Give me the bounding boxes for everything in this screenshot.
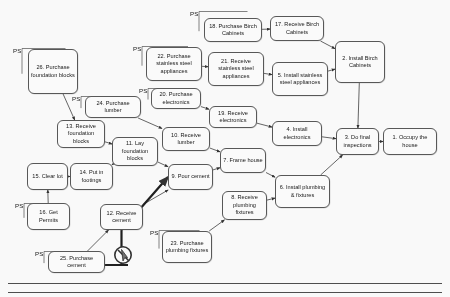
ps-marker-n25: PS xyxy=(35,250,44,257)
node-n12[interactable]: 12. Receive cement xyxy=(100,204,143,230)
node-label: 19. Receive electronics xyxy=(212,110,254,125)
node-label: 20. Purchase electronics xyxy=(154,91,198,106)
node-n18[interactable]: 18. Purchase Birch Cabinets xyxy=(204,18,262,42)
node-n17[interactable]: 17. Receive Birch Cabinets xyxy=(270,16,324,41)
node-label: 23. Purchase plumbing fixtures xyxy=(165,240,209,255)
node-n3[interactable]: 3. Do final inspections xyxy=(336,128,379,155)
no-drop-cursor-icon xyxy=(112,244,136,268)
node-n9[interactable]: 9. Pour cement xyxy=(168,164,213,190)
edge-n20-n19 xyxy=(201,107,209,110)
node-label: 25. Purchase cement xyxy=(51,255,102,270)
node-n7[interactable]: 7. Frame house xyxy=(220,148,266,173)
node-n22[interactable]: 22. Purchase stainless steel appliances xyxy=(146,47,202,81)
edge-n25-n12 xyxy=(88,230,109,251)
node-n21[interactable]: 21. Receive stainless steel appliances xyxy=(208,52,264,86)
ps-marker-n20: PS xyxy=(139,87,148,94)
edge-n23-n8 xyxy=(209,220,224,231)
network-diagram-canvas: 26. Purchase foundation blocksPS18. Purc… xyxy=(0,0,450,297)
node-n20[interactable]: 20. Purchase electronics xyxy=(151,88,201,109)
ps-marker-n22: PS xyxy=(133,45,142,52)
node-label: 17. Receive Birch Cabinets xyxy=(273,21,321,36)
node-label: 3. Do final inspections xyxy=(339,134,376,149)
edge-n7-n6 xyxy=(266,173,275,178)
ps-marker-n16: PS xyxy=(15,202,24,209)
node-n8[interactable]: 8. Receive plumbing fixtures xyxy=(222,191,267,220)
node-n26[interactable]: 26. Purchase foundation blocks xyxy=(28,49,78,94)
node-label: 14. Put in footings xyxy=(73,169,110,184)
edge-n10-n7 xyxy=(210,148,220,152)
edge-n13-n11 xyxy=(105,142,112,144)
node-label: 2. Install Birch Cabinets xyxy=(338,55,382,70)
edge-n8-n6 xyxy=(267,198,275,200)
node-n2[interactable]: 2. Install Birch Cabinets xyxy=(335,41,385,83)
node-label: 18. Purchase Birch Cabinets xyxy=(207,23,259,38)
node-n10[interactable]: 10. Receive lumber xyxy=(162,127,210,151)
ps-marker-n24: PS xyxy=(72,95,81,102)
node-label: 15. Clear lot xyxy=(30,173,65,180)
node-label: 9. Pour cement xyxy=(171,173,210,180)
edge-n4-n3 xyxy=(322,137,336,139)
node-label: 24. Purchase lumber xyxy=(88,100,138,115)
edge-n12-n9 xyxy=(143,190,168,205)
edge-n21-n5 xyxy=(264,73,272,74)
edge-n5-n2 xyxy=(328,69,335,71)
node-n11[interactable]: 11. Lay foundation blocks xyxy=(112,137,158,166)
node-label: 12. Receive cement xyxy=(103,210,140,225)
node-label: 13. Receive foundation blocks xyxy=(60,123,102,145)
edge-n6-n3 xyxy=(321,155,343,175)
edge-n11-n9 xyxy=(158,162,168,167)
edge-n17-n2 xyxy=(321,41,336,49)
ps-marker-n26: PS xyxy=(13,47,22,54)
node-n13[interactable]: 13. Receive foundation blocks xyxy=(57,120,105,148)
node-n1[interactable]: 1. Occupy the house xyxy=(383,128,437,155)
node-label: 16. Get Permits xyxy=(30,209,67,224)
node-n16[interactable]: 16. Get Permits xyxy=(27,203,70,230)
node-label: 8. Receive plumbing fixtures xyxy=(225,194,264,216)
edge-n2-n3 xyxy=(358,83,359,128)
footer-divider-bottom xyxy=(8,292,442,293)
node-label: 10. Receive lumber xyxy=(165,132,207,147)
node-label: 21. Receive stainless steel appliances xyxy=(211,58,261,80)
node-n24[interactable]: 24. Purchase lumber xyxy=(85,96,141,118)
node-n19[interactable]: 19. Receive electronics xyxy=(209,106,257,128)
node-label: 4. Install electronics xyxy=(275,126,319,141)
footer-divider-top xyxy=(8,283,442,284)
edge-n24-n10 xyxy=(138,118,162,129)
node-n14[interactable]: 14. Put in footings xyxy=(70,163,113,190)
node-n6[interactable]: 6. Install plumbing & fixtures xyxy=(275,175,330,208)
edge-n19-n4 xyxy=(257,123,272,127)
node-label: 7. Frame house xyxy=(223,157,263,164)
ps-marker-n18: PS xyxy=(190,10,199,17)
node-label: 22. Purchase stainless steel appliances xyxy=(149,53,199,75)
node-n4[interactable]: 4. Install electronics xyxy=(272,121,322,146)
node-n23[interactable]: 23. Purchase plumbing fixtures xyxy=(162,231,212,263)
node-label: 6. Install plumbing & fixtures xyxy=(278,184,327,199)
node-label: 26. Purchase foundation blocks xyxy=(31,64,75,79)
node-label: 5. Install stainless steel appliances xyxy=(275,72,325,87)
node-label: 1. Occupy the house xyxy=(386,134,434,149)
node-n5[interactable]: 5. Install stainless steel appliances xyxy=(272,62,328,96)
edge-n9-n7 xyxy=(213,168,220,170)
ps-marker-n23: PS xyxy=(150,229,159,236)
node-n15[interactable]: 15. Clear lot xyxy=(27,163,68,190)
node-n25[interactable]: 25. Purchase cement xyxy=(48,251,105,273)
node-label: 11. Lay foundation blocks xyxy=(115,140,155,162)
